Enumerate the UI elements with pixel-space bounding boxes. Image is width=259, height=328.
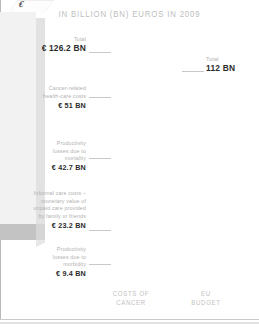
- callout-healthcare-costs: Cancer-related health-care costs € 51 BN: [8, 85, 86, 109]
- leader-line-healthcare-costs: [89, 97, 111, 98]
- infographic-canvas: IN BILLION (BN) EUROS IN 2009 € € Total …: [0, 0, 259, 328]
- callout-eu-total-value: 112 BN: [206, 65, 256, 73]
- callout-informal-care-costs-value: € 23.2 BN: [5, 222, 86, 230]
- callout-eu-total: Total 112 BN: [206, 56, 256, 73]
- callout-productivity-morbidity-value: € 9.4 BN: [8, 270, 86, 278]
- leader-line-productivity-mortality: [89, 158, 111, 159]
- callout-total-costs-value: € 126.2 BN: [8, 45, 86, 53]
- callout-total-costs-desc: Total: [12, 36, 86, 44]
- leader-line-informal-care-costs: [89, 230, 111, 231]
- callout-total-costs: Total € 126.2 BN: [8, 36, 86, 53]
- callout-productivity-mortality-desc: Productivity losses due to mortality: [12, 140, 86, 163]
- page-bottom-rule: [0, 319, 259, 320]
- callout-productivity-mortality: Productivity losses due to mortality € 4…: [8, 140, 86, 172]
- callout-productivity-morbidity: Productivity losses due to morbidity € 9…: [8, 246, 86, 278]
- leader-line-total-costs: [89, 52, 111, 53]
- chart-title: IN BILLION (BN) EUROS IN 2009: [10, 9, 248, 19]
- callout-informal-care-costs-desc: Informal care costs – monetary value of …: [9, 190, 86, 220]
- category-label-costs-of-cancer: COSTS OF CANCER: [97, 289, 165, 307]
- callout-productivity-morbidity-desc: Productivity losses due to morbidity: [12, 246, 86, 269]
- callout-healthcare-costs-desc: Cancer-related health-care costs: [12, 85, 86, 100]
- callout-healthcare-costs-value: € 51 BN: [8, 102, 86, 110]
- leader-line-eu-total: [182, 71, 204, 72]
- leader-line-productivity-morbidity: [89, 264, 111, 265]
- category-label-eu-budget: EU BUDGET: [172, 289, 240, 307]
- callout-productivity-mortality-value: € 42.7 BN: [8, 164, 86, 172]
- callout-eu-total-desc: Total: [206, 56, 219, 62]
- page-bottom-rule-secondary: [0, 322, 259, 324]
- callout-informal-care-costs: Informal care costs – monetary value of …: [5, 190, 86, 229]
